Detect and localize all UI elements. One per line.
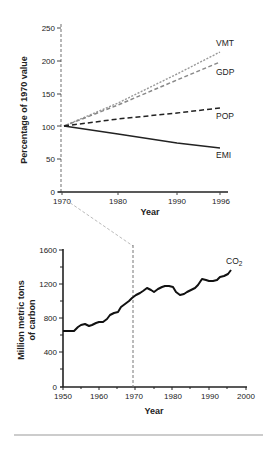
bottom-y-axis-label: Million metric tons of carbon: [16, 280, 37, 360]
bottom-y-tick-labels: 1600 1200 800 400 0: [39, 246, 57, 392]
y-tick-label: 200: [42, 57, 56, 66]
x-tick-label: 1980: [164, 392, 182, 401]
top-x-axis-label: Year: [140, 207, 160, 217]
x-tick-label: 1990: [168, 197, 186, 206]
x-tick-label: 2000: [237, 392, 255, 401]
co2-label: CO2: [226, 256, 243, 267]
y-tick-label: 400: [44, 348, 58, 357]
y-tick-label: 0: [53, 383, 58, 392]
top-chart: 250 200 150 100 50 0 1970 1980 1990 1996…: [19, 24, 235, 217]
y-tick-label: 0: [51, 188, 56, 197]
bottom-x-axis-label: Year: [144, 406, 164, 416]
y-tick-label: 1200: [39, 280, 57, 289]
x-tick-label: 1980: [109, 197, 127, 206]
top-x-tick-labels: 1970 1980 1990 1996: [53, 197, 230, 206]
x-tick-label: 1996: [212, 197, 230, 206]
connector-line: [66, 200, 133, 246]
y-tick-label: 50: [46, 155, 55, 164]
x-tick-label: 1970: [125, 392, 143, 401]
vmt-label: VMT: [216, 38, 234, 48]
pop-label: POP: [216, 111, 234, 121]
emi-label: EMI: [216, 150, 231, 160]
x-tick-label: 1950: [54, 392, 72, 401]
y-tick-label: 100: [42, 123, 56, 132]
x-tick-label: 1990: [201, 392, 219, 401]
pop-line: [64, 108, 220, 126]
vmt-line: [64, 52, 220, 126]
y-label-line2: of carbon: [27, 299, 37, 340]
emi-line: [64, 126, 220, 148]
bottom-x-tick-labels: 1950 1960 1970 1980 1990 2000: [54, 392, 255, 401]
co2-line: [63, 270, 231, 331]
top-y-axis-label: Percentage of 1970 value: [19, 56, 29, 164]
bottom-chart: 1600 1200 800 400 0 1950 1960 1970 1980 …: [16, 245, 255, 416]
y-tick-label: 150: [42, 90, 56, 99]
x-tick-label: 1960: [90, 392, 108, 401]
y-label-line1: Million metric tons: [16, 280, 26, 360]
y-tick-label: 250: [42, 24, 56, 33]
y-tick-label: 1600: [39, 246, 57, 255]
top-y-tick-labels: 250 200 150 100 50 0: [42, 24, 56, 197]
x-tick-label: 1970: [53, 197, 71, 206]
gdp-label: GDP: [216, 67, 235, 77]
y-tick-label: 800: [44, 314, 58, 323]
figure: 250 200 150 100 50 0 1970 1980 1990 1996…: [0, 0, 263, 449]
